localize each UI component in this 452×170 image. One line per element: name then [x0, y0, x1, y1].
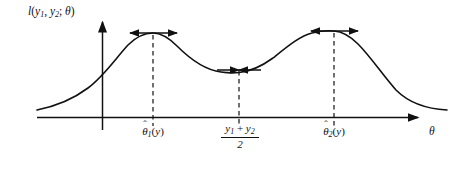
theta-hat-1-glyph: ˆθ — [142, 126, 147, 137]
theta-hat-2-glyph: ˆθ — [323, 126, 328, 137]
y-axis-label-close-paren: ) — [71, 5, 75, 17]
figure-root: l(y1, y2; θ) θ ˆθ1(y) y1 + y2 2 ˆθ2(y) — [0, 0, 452, 170]
midpoint-numerator: y1 + y2 — [209, 123, 271, 137]
hat-accent-icon: ˆ — [142, 120, 147, 130]
tick-label-midpoint: y1 + y2 2 — [209, 123, 271, 151]
theta-hat-2-close-paren: ) — [341, 125, 345, 137]
y-axis-label: l(y1, y2; θ) — [28, 6, 75, 19]
midpoint-sub-2: 2 — [251, 127, 255, 136]
midpoint-plus: + — [234, 122, 246, 134]
midpoint-denominator: 2 — [209, 138, 271, 151]
hat-accent-icon: ˆ — [323, 120, 328, 130]
tick-label-theta-hat-1: ˆθ1(y) — [113, 126, 193, 139]
tick-label-theta-hat-2: ˆθ2(y) — [294, 126, 374, 139]
theta-hat-1-close-paren: ) — [160, 125, 164, 137]
x-axis-label: θ — [429, 126, 435, 138]
